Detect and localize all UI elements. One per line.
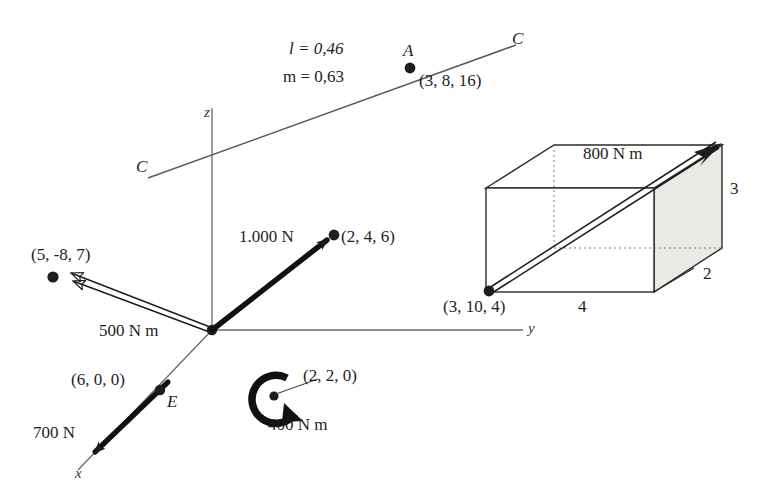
box-depth-dimension-label: 2 bbox=[703, 265, 712, 282]
point-3-10-4-marker bbox=[484, 286, 495, 297]
couple-center-dot bbox=[269, 391, 278, 400]
box-front-face bbox=[486, 188, 654, 292]
point-a-coords-label: (3, 8, 16) bbox=[419, 72, 481, 89]
moment-800nm-base-coords-label: (3, 10, 4) bbox=[443, 298, 505, 315]
point-a-label: A bbox=[403, 42, 413, 59]
couple-400nm-label: 400 N m bbox=[268, 416, 328, 433]
moment-500nm-shaft-upper bbox=[71, 273, 210, 327]
direction-cosine-l-label: l = 0,46 bbox=[289, 40, 343, 57]
statics-diagram-figure: l = 0,46 m = 0,63 A (3, 8, 16) C C z y x… bbox=[0, 0, 767, 497]
direction-cosine-m-label: m = 0,63 bbox=[283, 68, 344, 85]
force-700n-label: 700 N bbox=[33, 424, 75, 441]
line-cc-far-label: C bbox=[512, 30, 523, 47]
point-a-marker bbox=[405, 63, 416, 74]
moment-800nm-label: 800 N m bbox=[583, 145, 643, 162]
force-1000n-coords-label: (2, 4, 6) bbox=[341, 228, 395, 245]
point-5-8-7-marker bbox=[47, 271, 58, 282]
line-cc-near-label: C bbox=[136, 158, 147, 175]
x-axis-label: x bbox=[75, 466, 82, 481]
force-1000n-arrow bbox=[212, 240, 327, 330]
reference-box bbox=[484, 142, 722, 296]
force-1000n-label: 1.000 N bbox=[239, 228, 294, 245]
y-axis-label: y bbox=[528, 321, 535, 336]
moment-500nm-label: 500 N m bbox=[99, 322, 159, 339]
box-height-dimension-label: 3 bbox=[730, 180, 739, 197]
point-e-label: E bbox=[167, 393, 177, 410]
moment-500nm-coords-label: (5, -8, 7) bbox=[31, 246, 90, 263]
z-axis-label: z bbox=[204, 105, 210, 120]
point-e-coords-label: (6, 0, 0) bbox=[71, 371, 125, 388]
box-width-dimension-label: 4 bbox=[578, 298, 587, 315]
point-246-marker bbox=[329, 230, 340, 241]
diagram-canvas bbox=[0, 0, 767, 497]
couple-400nm-coords-label: (2, 2, 0) bbox=[303, 367, 357, 384]
force-700n-vector bbox=[95, 382, 168, 452]
point-e-marker bbox=[155, 385, 165, 395]
